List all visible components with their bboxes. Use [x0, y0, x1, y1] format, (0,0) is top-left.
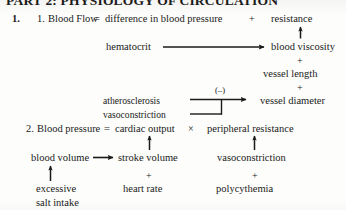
factor-vasoconstriction-2: vasoconstriction [217, 153, 286, 164]
outline-number: 1. [12, 14, 20, 25]
factor-polycythemia: polycythemia [216, 184, 273, 195]
factor-hematocrit: hematocrit [106, 42, 151, 53]
equation2-number: 2. [26, 124, 34, 135]
factor-salt-intake: salt intake [36, 198, 79, 209]
plus-sign-3: + [146, 171, 152, 181]
factor-blood-viscosity: blood viscosity [271, 42, 335, 53]
equation1-equals: = [94, 14, 100, 25]
plus-sign-2: + [297, 83, 303, 93]
factor-atherosclerosis: atherosclerosis [103, 96, 160, 106]
equation2-term2: peripheral resistance [207, 124, 294, 135]
factor-vasoconstriction: vasoconstriction [103, 110, 166, 120]
equation1-term1: difference in blood pressure [105, 14, 222, 25]
equation2-operator: × [188, 124, 194, 134]
equation2-equals: = [104, 124, 110, 135]
plus-sign-1: + [297, 56, 303, 66]
factor-excessive: excessive [36, 184, 76, 195]
equation1-number: 1. [37, 14, 45, 25]
equation2-term1: cardiac output [115, 124, 175, 135]
scanned-textbook-page: PART 2: PHYSIOLOGY OF CIRCULATION 1. 1. … [0, 0, 346, 210]
equation1-subject: Blood Flow [48, 14, 98, 25]
factor-stroke-volume: stroke volume [118, 153, 178, 164]
factor-blood-volume: blood volume [31, 153, 89, 164]
negative-sign-label: (–) [215, 86, 225, 95]
factor-vessel-length: vessel length [263, 69, 318, 80]
plus-sign-4: + [252, 171, 258, 181]
factor-heart-rate: heart rate [123, 184, 162, 195]
bracket-join-icon-negative-effect [190, 100, 246, 115]
equation1-operator: + [249, 14, 255, 24]
page-heading: PART 2: PHYSIOLOGY OF CIRCULATION [6, 0, 278, 8]
factor-vessel-diameter: vessel diameter [260, 96, 325, 107]
equation1-term2: resistance [271, 14, 312, 25]
equation2-subject: Blood pressure [37, 124, 100, 135]
